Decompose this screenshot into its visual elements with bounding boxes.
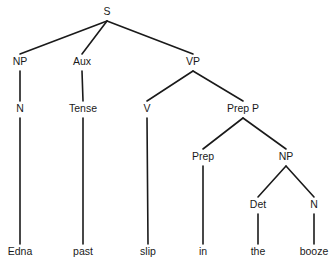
node-label-v: V [143, 102, 150, 114]
node-label-vp: VP [186, 55, 200, 67]
tree-edge-prepp-prep [203, 118, 243, 149]
tree-edge-vp-prepp [193, 71, 243, 101]
node-label-tense: Tense [69, 102, 97, 114]
tree-edges [20, 21, 314, 244]
tree-edge-vp-v [147, 71, 193, 101]
leaf-word-the: the [251, 245, 266, 257]
node-label-n1: N [16, 102, 24, 114]
leaf-word-slip: slip [140, 245, 156, 257]
tree-labels: SNPAuxVPNTenseVPrep PPrepNPDetNEdnapasts… [8, 5, 329, 257]
leaf-word-booze: booze [300, 245, 329, 257]
leaf-word-past: past [73, 245, 93, 257]
tree-edge-prepp-np2 [243, 118, 286, 149]
tree-edge-np2-det [258, 166, 286, 197]
node-label-aux: Aux [73, 55, 92, 67]
node-label-np2: NP [279, 150, 294, 162]
node-label-n2: N [310, 198, 318, 210]
leaf-word-edna: Edna [8, 245, 33, 257]
tree-edge-np2-n2 [286, 166, 314, 197]
tree-edge-s-vp [107, 21, 193, 54]
node-label-np1: NP [13, 55, 28, 67]
syntax-tree: SNPAuxVPNTenseVPrep PPrepNPDetNEdnapasts… [0, 0, 335, 271]
node-label-det: Det [250, 198, 266, 210]
node-label-prepp: Prep P [227, 102, 259, 114]
tree-edge-aux-tense [82, 71, 83, 101]
node-label-prep: Prep [192, 150, 214, 162]
tree-edge-v-w_slip [147, 118, 148, 244]
leaf-word-in: in [199, 245, 207, 257]
node-label-s: S [103, 5, 110, 17]
